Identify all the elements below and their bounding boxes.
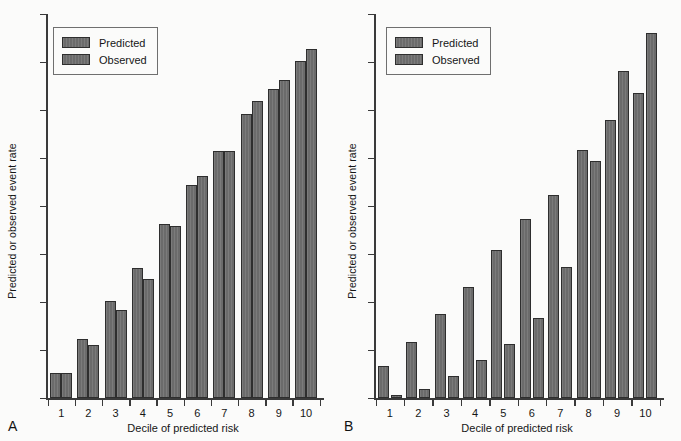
x-axis-tick <box>48 400 49 406</box>
y-axis-tick <box>368 110 374 111</box>
y-axis-tick <box>368 302 374 303</box>
x-axis-tick <box>238 400 239 406</box>
bar-predicted-decile-7 <box>548 195 559 398</box>
bar-observed-decile-10 <box>306 49 317 398</box>
y-axis-label-wrap-a: Predicted or observed event rate <box>0 0 24 441</box>
y-axis-tick <box>368 206 374 207</box>
y-axis-tick <box>40 158 46 159</box>
bar-predicted-decile-3 <box>105 301 116 399</box>
x-axis-line <box>374 398 664 400</box>
x-tick-label-4: 4 <box>140 407 146 419</box>
x-axis-line <box>46 398 324 400</box>
x-tick-label-10: 10 <box>639 407 651 419</box>
bar-predicted-decile-9 <box>268 89 279 398</box>
x-axis-tick <box>265 400 266 406</box>
x-tick-labels-a: 12345678910 <box>46 407 320 422</box>
y-axis-label-wrap-b: Predicted or observed event rate <box>340 0 364 441</box>
bar-predicted-decile-1 <box>378 366 389 399</box>
legend-swatch-predicted-icon <box>395 37 423 48</box>
x-tick-label-9: 9 <box>276 407 282 419</box>
x-tick-label-1: 1 <box>58 407 64 419</box>
bar-group-decile-9 <box>268 14 290 398</box>
bar-group-decile-6 <box>186 14 208 398</box>
legend-b: Predicted Observed <box>386 27 491 75</box>
bar-group-decile-9 <box>605 14 629 398</box>
y-axis-tick <box>40 350 46 351</box>
legend-swatch-observed-icon <box>62 54 90 65</box>
x-tick-label-3: 3 <box>113 407 119 419</box>
legend-row-predicted: Predicted <box>62 34 147 51</box>
x-axis-title: Decile of predicted risk <box>374 422 660 434</box>
bar-observed-decile-8 <box>252 101 263 399</box>
bar-observed-decile-5 <box>504 344 515 399</box>
panel-letter: A <box>8 418 17 434</box>
x-axis-tick <box>574 400 575 406</box>
bar-observed-decile-7 <box>561 267 572 399</box>
panel-b: Predicted or observed event rate 1234567… <box>340 0 681 441</box>
bar-group-decile-8 <box>241 14 263 398</box>
legend-a: Predicted Observed <box>53 27 158 75</box>
x-tick-labels-b: 12345678910 <box>374 407 660 422</box>
x-tick-label-2: 2 <box>85 407 91 419</box>
bar-observed-decile-3 <box>448 376 459 398</box>
x-axis-tick <box>432 400 433 406</box>
bar-observed-decile-9 <box>618 71 629 398</box>
x-tick-label-6: 6 <box>194 407 200 419</box>
bar-predicted-decile-1 <box>50 373 61 398</box>
y-axis-tick <box>40 62 46 63</box>
bar-observed-decile-1 <box>391 395 402 399</box>
bar-observed-decile-7 <box>224 151 235 399</box>
figure-container: Predicted or observed event rate 1234567… <box>0 0 681 441</box>
bar-predicted-decile-8 <box>577 150 588 399</box>
bar-observed-decile-2 <box>419 389 430 398</box>
bar-predicted-decile-6 <box>186 185 197 398</box>
bar-group-decile-10 <box>295 14 317 398</box>
x-axis-tick <box>404 400 405 406</box>
y-axis-tick <box>40 110 46 111</box>
y-axis-tick <box>368 398 374 399</box>
x-axis-tick <box>129 400 130 406</box>
bar-predicted-decile-7 <box>213 151 224 399</box>
x-tick-label-3: 3 <box>444 407 450 419</box>
x-axis-tick <box>518 400 519 406</box>
bar-predicted-decile-4 <box>132 268 143 399</box>
x-axis-tick <box>292 400 293 406</box>
panel-letter: B <box>344 418 353 434</box>
x-tick-label-6: 6 <box>529 407 535 419</box>
bar-group-decile-10 <box>633 14 657 398</box>
y-axis-tick <box>40 398 46 399</box>
x-tick-label-9: 9 <box>614 407 620 419</box>
x-axis-tick <box>184 400 185 406</box>
bar-predicted-decile-10 <box>295 61 306 399</box>
bar-observed-decile-3 <box>116 310 127 398</box>
bar-observed-decile-9 <box>279 80 290 399</box>
y-axis-tick <box>368 14 374 15</box>
y-axis-label: Predicted or observed event rate <box>346 143 358 299</box>
bar-predicted-decile-9 <box>605 120 616 398</box>
x-tick-label-7: 7 <box>557 407 563 419</box>
legend-label-observed: Observed <box>432 54 480 66</box>
bar-predicted-decile-5 <box>159 224 170 399</box>
y-axis-tick <box>368 158 374 159</box>
x-axis-tick <box>376 400 377 406</box>
y-axis-tick <box>368 62 374 63</box>
bar-predicted-decile-10 <box>633 93 644 398</box>
legend-label-predicted: Predicted <box>432 37 478 49</box>
bar-observed-decile-4 <box>476 360 487 398</box>
x-axis-tick <box>102 400 103 406</box>
bar-predicted-decile-2 <box>77 339 88 399</box>
bar-predicted-decile-4 <box>463 287 474 399</box>
bar-group-decile-7 <box>213 14 235 398</box>
bar-observed-decile-6 <box>533 318 544 398</box>
bar-predicted-decile-3 <box>435 314 446 398</box>
bar-observed-decile-2 <box>88 345 99 399</box>
x-axis-tick <box>320 400 321 406</box>
y-axis-tick <box>40 254 46 255</box>
bar-observed-decile-5 <box>170 226 181 399</box>
y-axis-tick <box>368 350 374 351</box>
legend-row-observed: Observed <box>62 51 147 68</box>
y-axis-tick <box>40 14 46 15</box>
legend-swatch-predicted-icon <box>62 37 90 48</box>
x-tick-label-4: 4 <box>472 407 478 419</box>
bar-group-decile-5 <box>491 14 515 398</box>
